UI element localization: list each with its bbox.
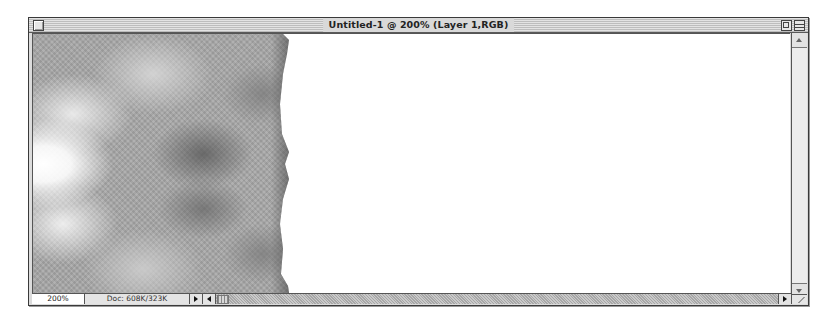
scroll-up-arrow-icon[interactable] — [792, 33, 807, 48]
clouds-texture-layer — [33, 34, 291, 299]
scroll-left-arrow-icon[interactable] — [203, 294, 216, 304]
status-bar: 200% Doc: 608K/323K — [32, 293, 791, 304]
vertical-scrollbar[interactable] — [791, 33, 807, 298]
torn-edge — [271, 34, 293, 299]
image-canvas[interactable] — [32, 33, 790, 299]
horizontal-scroll-thumb[interactable] — [217, 295, 229, 304]
window-title: Untitled-1 @ 200% (Layer 1,RGB) — [323, 18, 515, 32]
close-icon[interactable] — [33, 20, 44, 31]
zoom-box-icon[interactable] — [781, 20, 792, 31]
title-bar[interactable]: Untitled-1 @ 200% (Layer 1,RGB) — [29, 18, 808, 33]
zoom-level-field[interactable]: 200% — [32, 294, 85, 304]
scroll-right-arrow-icon[interactable] — [778, 294, 791, 304]
collapse-icon[interactable] — [794, 20, 805, 31]
doc-size-info[interactable]: Doc: 608K/323K — [85, 294, 190, 304]
document-window: Untitled-1 @ 200% (Layer 1,RGB) 200% Doc… — [28, 17, 809, 306]
status-menu-arrow-icon[interactable] — [190, 294, 203, 304]
horizontal-scrollbar[interactable] — [216, 294, 791, 304]
resize-grip-icon[interactable] — [791, 294, 807, 304]
